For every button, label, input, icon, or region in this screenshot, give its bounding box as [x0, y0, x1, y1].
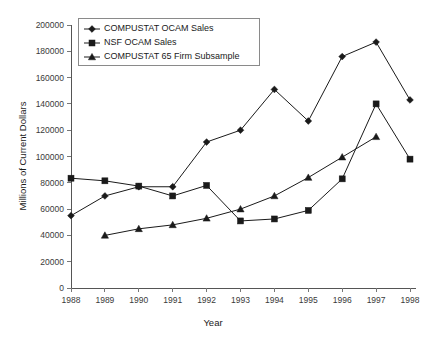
- x-tick-label: 1994: [265, 295, 284, 305]
- x-axis-title: Year: [203, 317, 222, 328]
- legend-item-1[interactable]: COMPUSTAT OCAM Sales: [84, 23, 214, 33]
- data-point-square: [373, 101, 379, 107]
- x-tick-label: 1995: [299, 295, 318, 305]
- y-axis-title: Millions of Current Dollars: [17, 101, 28, 210]
- x-tick-label: 1988: [62, 295, 81, 305]
- data-point-triangle: [373, 133, 380, 139]
- x-axis-ticks: 1988198919901991199219931994199519961997…: [62, 288, 420, 305]
- x-tick-label: 1993: [231, 295, 250, 305]
- data-point-diamond: [373, 39, 380, 46]
- y-tick-label: 120000: [36, 125, 65, 135]
- y-tick-label: 140000: [36, 99, 65, 109]
- data-point-diamond: [339, 53, 346, 60]
- data-point-square: [102, 178, 108, 184]
- legend-label: COMPUSTAT 65 Firm Subsample: [104, 51, 240, 61]
- y-tick-label: 180000: [36, 46, 65, 56]
- data-point-square: [271, 216, 277, 222]
- data-point-square: [238, 218, 244, 224]
- y-tick-label: 200000: [36, 20, 65, 30]
- y-tick-label: 20000: [40, 257, 64, 267]
- x-tick-label: 1991: [163, 295, 182, 305]
- data-point-diamond: [102, 193, 109, 200]
- data-point-triangle: [271, 192, 278, 198]
- data-point-square: [136, 183, 142, 189]
- data-point-square: [305, 207, 311, 213]
- legend-marker-square: [89, 40, 95, 46]
- data-point-triangle: [237, 206, 244, 212]
- y-tick-label: 100000: [36, 152, 65, 162]
- y-axis-ticks: 0200004000060000800001000001200001400001…: [36, 20, 71, 293]
- data-point-diamond: [407, 97, 414, 104]
- series-1: [68, 39, 414, 219]
- data-point-square: [204, 182, 210, 188]
- x-tick-label: 1997: [367, 295, 386, 305]
- data-point-square: [170, 193, 176, 199]
- x-tick-label: 1996: [333, 295, 352, 305]
- x-tick-label: 1992: [197, 295, 216, 305]
- y-tick-label: 160000: [36, 73, 65, 83]
- legend-label: NSF OCAM Sales: [104, 37, 177, 47]
- x-tick-label: 1998: [401, 295, 420, 305]
- line-chart: 0200004000060000800001000001200001400001…: [0, 0, 427, 340]
- data-point-square: [68, 175, 74, 181]
- data-point-square: [339, 176, 345, 182]
- series-line: [71, 104, 410, 221]
- legend: COMPUSTAT OCAM SalesNSF OCAM SalesCOMPUS…: [78, 18, 259, 65]
- data-point-triangle: [339, 154, 346, 160]
- y-tick-label: 80000: [40, 178, 64, 188]
- x-tick-label: 1989: [95, 295, 114, 305]
- legend-label: COMPUSTAT OCAM Sales: [104, 23, 214, 33]
- data-point-square: [407, 156, 413, 162]
- chart-container: 0200004000060000800001000001200001400001…: [0, 0, 427, 340]
- data-point-triangle: [305, 174, 312, 180]
- legend-item-3[interactable]: COMPUSTAT 65 Firm Subsample: [84, 51, 240, 61]
- y-tick-label: 40000: [40, 230, 64, 240]
- y-tick-label: 60000: [40, 204, 64, 214]
- x-tick-label: 1990: [129, 295, 148, 305]
- data-point-diamond: [68, 212, 75, 219]
- y-tick-label: 0: [59, 283, 64, 293]
